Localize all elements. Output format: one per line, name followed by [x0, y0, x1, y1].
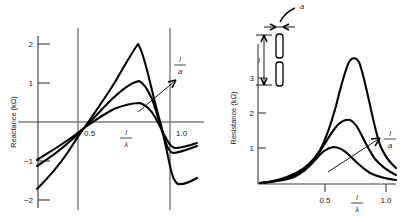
ytick-label-2: 2 [250, 109, 255, 118]
ytick-label-1: 1 [250, 144, 255, 153]
resistance-parameter-label: l a [384, 129, 396, 150]
radius-leader-line [280, 8, 295, 22]
resistance-x-axis-title: l λ [351, 193, 363, 214]
reactance-curve-large-l-over-a [37, 44, 197, 189]
x-axis-title-denominator: λ [123, 140, 128, 149]
reactance-parameter-label: l a [174, 55, 186, 76]
ytick-label-2: 2 [29, 40, 34, 49]
dipole-lower-arm [276, 62, 283, 86]
ytick-label-1: 1 [29, 79, 34, 88]
resistance-panel: 3 2 1 Resistance (kΩ) 0.5 1.0 l λ [200, 0, 407, 222]
xtick-label-0p5: 0.5 [319, 196, 331, 205]
reactance-axis-title: Reactance (kΩ) [9, 96, 18, 148]
x-axis-title-numerator: l [125, 128, 127, 137]
ytick-label-minus2: −2 [24, 196, 34, 205]
antenna-impedance-figure: 2 1 −1 −2 Reactance (kΩ) 0.5 1.0 l λ [0, 0, 407, 222]
reactance-curve-small-l-over-a [37, 103, 197, 160]
resistance-plot: 3 2 1 Resistance (kΩ) 0.5 1.0 l λ [200, 0, 407, 222]
parameter-label-denominator: a [178, 67, 182, 76]
xtick-label-1p0: 1.0 [380, 196, 392, 205]
ytick-label-minus1: −1 [24, 157, 34, 166]
parameter-label-denominator: a [388, 141, 392, 150]
reactance-curve-medium-l-over-a [37, 81, 197, 166]
xtick-label-1p0: 1.0 [176, 129, 188, 138]
reactance-panel: 2 1 −1 −2 Reactance (kΩ) 0.5 1.0 l λ [0, 0, 204, 222]
x-axis-title-numerator: l [356, 193, 358, 202]
radius-label: a [300, 2, 304, 11]
parameter-arrow-head [168, 80, 176, 88]
dipole-upper-arm [276, 34, 283, 58]
length-label: l [258, 56, 260, 65]
reactance-plot: 2 1 −1 −2 Reactance (kΩ) 0.5 1.0 l λ [0, 0, 204, 222]
reactance-x-axis-title: l λ [120, 128, 132, 149]
x-axis-title-denominator: λ [354, 205, 359, 214]
resistance-axis-title: Resistance (kΩ) [229, 92, 238, 145]
parameter-label-numerator: l [389, 129, 391, 138]
ytick-label-3: 3 [250, 74, 255, 83]
parameter-label-numerator: l [179, 55, 181, 64]
xtick-label-0p5: 0.5 [84, 129, 96, 138]
resistance-curve-small-l-over-a [260, 147, 396, 183]
dipole-inset-diagram: a l [256, 2, 304, 86]
